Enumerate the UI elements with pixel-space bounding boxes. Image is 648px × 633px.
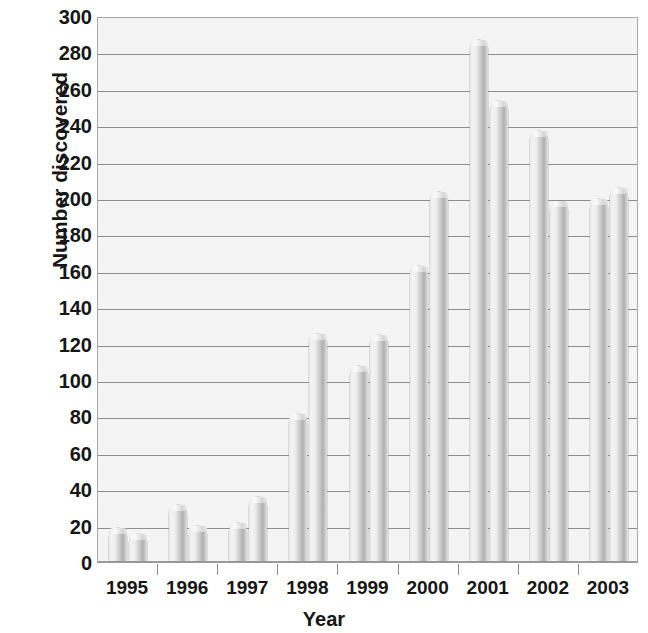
y-tick-label: 240 bbox=[59, 115, 92, 138]
bar bbox=[229, 523, 247, 561]
y-tick-label: 60 bbox=[70, 442, 92, 465]
x-tick-mark bbox=[518, 564, 519, 575]
y-tick-label: 220 bbox=[59, 151, 92, 174]
x-tick-label: 1996 bbox=[166, 577, 208, 599]
x-tick-label: 2001 bbox=[467, 577, 509, 599]
x-tick-mark bbox=[458, 564, 459, 575]
bar bbox=[410, 266, 428, 561]
y-tick-label: 180 bbox=[59, 224, 92, 247]
bar bbox=[189, 526, 207, 561]
bar bbox=[590, 199, 608, 561]
y-tick-label: 280 bbox=[59, 42, 92, 65]
x-tick-mark bbox=[578, 564, 579, 575]
x-tick-label: 1997 bbox=[226, 577, 268, 599]
y-tick-label: 0 bbox=[81, 552, 92, 575]
bar bbox=[490, 101, 508, 561]
y-tick-label: 40 bbox=[70, 479, 92, 502]
y-tick-label: 100 bbox=[59, 370, 92, 393]
x-tick-label: 1998 bbox=[286, 577, 328, 599]
x-tick-mark bbox=[398, 564, 399, 575]
bar bbox=[610, 188, 628, 561]
x-tick-mark bbox=[277, 564, 278, 575]
y-tick-label: 160 bbox=[59, 260, 92, 283]
bar bbox=[289, 414, 307, 561]
y-tick-label: 120 bbox=[59, 333, 92, 356]
x-tick-label: 2002 bbox=[527, 577, 569, 599]
x-tick-label: 1995 bbox=[106, 577, 148, 599]
y-tick-label: 200 bbox=[59, 188, 92, 211]
x-tick-label: 2000 bbox=[406, 577, 448, 599]
bar bbox=[550, 201, 568, 561]
bar bbox=[169, 505, 187, 561]
bar bbox=[309, 334, 327, 562]
chart-figure: Number discovered 0204060801001201401601… bbox=[0, 0, 648, 633]
bar bbox=[249, 497, 267, 561]
y-axis-tick-labels: 0204060801001201401601802002202402602803… bbox=[38, 0, 96, 580]
plot-area bbox=[97, 17, 638, 563]
bar bbox=[530, 131, 548, 561]
y-tick-label: 300 bbox=[59, 6, 92, 29]
x-axis-tick-labels: 199519961997199819992000200120022003 bbox=[0, 577, 648, 605]
x-tick-mark bbox=[157, 564, 158, 575]
bar bbox=[470, 40, 488, 561]
x-tick-mark bbox=[337, 564, 338, 575]
bar-series bbox=[98, 18, 637, 561]
bar bbox=[350, 366, 368, 561]
y-tick-label: 20 bbox=[70, 515, 92, 538]
x-tick-label: 1999 bbox=[346, 577, 388, 599]
y-tick-label: 80 bbox=[70, 406, 92, 429]
x-tick-label: 2003 bbox=[587, 577, 629, 599]
x-tick-mark bbox=[217, 564, 218, 575]
y-tick-label: 140 bbox=[59, 297, 92, 320]
bar bbox=[430, 192, 448, 561]
bar bbox=[109, 528, 127, 561]
y-tick-label: 260 bbox=[59, 78, 92, 101]
bar bbox=[370, 335, 388, 561]
x-axis-title: Year bbox=[0, 608, 648, 631]
bar bbox=[129, 534, 147, 561]
